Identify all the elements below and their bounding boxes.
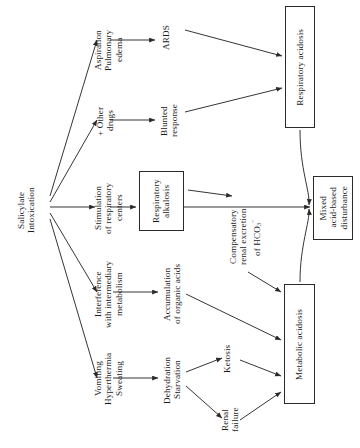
node-line: alkalosis (162, 179, 172, 223)
node-line: Intoxication (26, 164, 36, 256)
edge-dehydration-to-ketosis (186, 358, 222, 372)
node-line: ARDS (161, 14, 171, 62)
box-metabolic-acidosis: Metabolic acidosis (284, 284, 315, 404)
node-line: Compensatory (228, 196, 238, 278)
node-line: Ketosis (222, 334, 232, 384)
node-ketosis: Ketosis (222, 334, 232, 384)
node-line: + Other (95, 86, 105, 156)
node-respiratory-alkalosis: Respiratory alkalosis (151, 179, 172, 223)
node-line: Accumulation (162, 240, 172, 348)
node-line: Blunted (159, 90, 169, 152)
edge-source-to-vomiting (50, 219, 97, 378)
node-line: Aspiration (93, 2, 103, 98)
edge-ards-to-resp-acidosis (185, 30, 282, 56)
edge-source-to-other-drugs (50, 120, 97, 202)
edge-resp-acidosis-to-mixed (300, 130, 309, 205)
box-respiratory-alkalosis: Respiratory alkalosis (139, 171, 184, 231)
node-line: Renal (220, 396, 230, 444)
node-metabolic-acidosis: Metabolic acidosis (294, 309, 304, 380)
node-line: of organic acids (172, 240, 182, 348)
node-line: Pulmonary (103, 2, 113, 98)
edge-source-to-interference (50, 213, 97, 292)
node-line: Respiratory acidosis (295, 29, 305, 106)
node-line: Vomiting (93, 330, 103, 428)
node-line: Salicylate (16, 164, 26, 256)
node-line: failure (230, 396, 240, 444)
edge-dehydration-to-renal-failure (186, 386, 222, 418)
node-line: edema (114, 2, 124, 98)
node-line: Starvation (172, 340, 182, 420)
node-other-drugs: + Other drugs (95, 86, 116, 156)
node-renal-failure: Renal failure (220, 396, 241, 444)
node-respiratory-acidosis: Respiratory acidosis (295, 29, 305, 106)
edge-blunted-to-resp-acidosis (185, 88, 282, 112)
node-line: Sweating (114, 330, 124, 428)
node-salicylate-intoxication: Salicylate Intoxication (16, 164, 37, 256)
node-line: acid-based (328, 186, 338, 229)
node-line: Mixed (318, 186, 328, 229)
edge-renal-failure-to-metabolic (240, 392, 281, 420)
node-line: Dehydration (162, 340, 172, 420)
node-accumulation-organic-acids: Accumulation of organic acids (162, 240, 183, 348)
box-respiratory-acidosis: Respiratory acidosis (285, 6, 315, 128)
node-mixed-acid-based-disturbance: Mixed acid-based disturbance (318, 186, 349, 229)
node-blunted-response: Blunted response (159, 90, 180, 152)
edge-metabolic-acidosis-to-mixed (300, 209, 309, 282)
node-ards: ARDS (161, 14, 171, 62)
node-line: response (169, 90, 179, 152)
node-line: disturbance (338, 186, 348, 229)
node-line: Hyperthermia (103, 330, 113, 428)
node-line: Respiratory (151, 179, 161, 223)
edge-source-to-aspiration (50, 40, 97, 196)
edge-resp-alkalosis-to-compensatory (188, 190, 232, 196)
box-mixed-acid-based-disturbance: Mixed acid-based disturbance (313, 176, 353, 240)
node-dehydration-starvation: Dehydration Starvation (162, 340, 183, 420)
node-aspiration-pulmonary-edema: Aspiration Pulmonary edema (93, 2, 124, 98)
edge-ketosis-to-metabolic (240, 360, 281, 376)
node-compensatory-renal-excretion-hco3: Compensatory renal excretion of HCO3− (228, 196, 263, 278)
node-line: renal excretion (238, 196, 248, 278)
node-line: drugs (105, 86, 115, 156)
node-line: Metabolic acidosis (294, 309, 304, 380)
edge-accumulation-to-metabolic (186, 294, 281, 340)
node-line-hco3: of HCO3− (249, 196, 263, 278)
node-vomiting-hyperthermia-sweating: Vomiting Hyperthermia Sweating (93, 330, 124, 428)
